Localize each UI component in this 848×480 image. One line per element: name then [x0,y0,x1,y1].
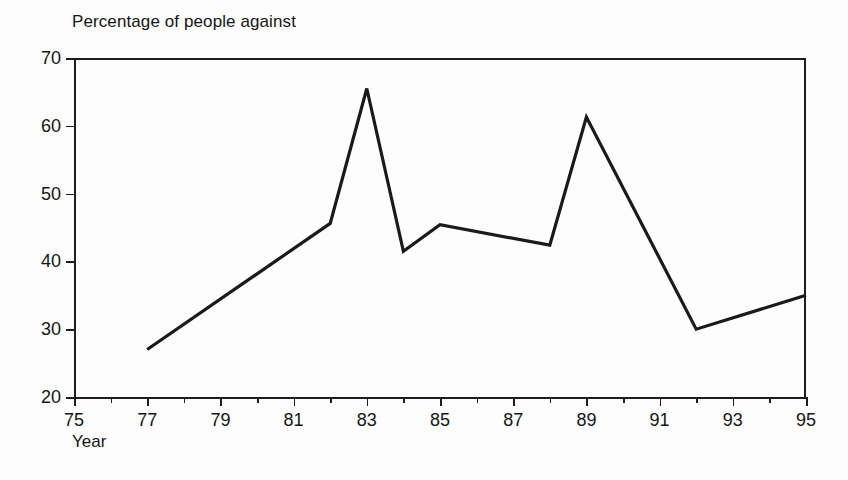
plot-area: 203040506070 7577798183858789919395 [74,58,806,398]
x-axis-tick-label: 79 [210,410,230,430]
y-axis-tick-label: 70 [41,49,61,67]
x-axis-tick-label: 83 [357,410,377,430]
x-axis-tick-label: 95 [796,410,816,430]
y-axis-tick [66,58,74,60]
x-axis-tick-label: 81 [284,410,304,430]
data-line-series [74,58,806,399]
x-axis-tick [806,397,808,406]
x-axis-tick-label: 75 [64,410,84,430]
y-axis-tick [66,126,74,128]
y-axis-tick-label: 30 [41,320,61,338]
y-axis-tick-label: 50 [41,185,61,203]
y-axis-tick [66,194,74,196]
chart-title: Percentage of people against [72,12,296,32]
x-axis-tick-label: 87 [503,410,523,430]
y-axis-tick-label: 20 [41,388,61,406]
y-axis-tick [66,397,74,399]
y-axis-tick [66,261,74,263]
x-axis-tick-label: 93 [723,410,743,430]
x-axis-tick-label: 89 [576,410,596,430]
y-axis-tick-label: 40 [41,252,61,270]
y-axis-tick-label: 60 [41,117,61,135]
x-axis-tick-label: 77 [137,410,157,430]
x-axis-tick-label: 85 [430,410,450,430]
x-axis-title: Year [72,432,106,452]
chart-figure: Percentage of people against 20304050607… [0,0,848,480]
y-axis-tick [66,329,74,331]
x-axis-tick-label: 91 [650,410,670,430]
